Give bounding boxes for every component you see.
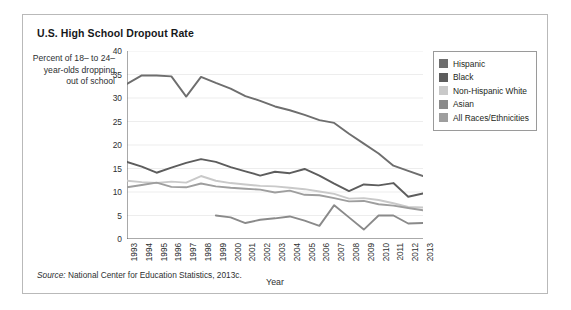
y-tick-label: 20 xyxy=(113,140,122,150)
legend-swatch xyxy=(439,86,448,95)
x-tick-label: 2005 xyxy=(308,243,317,261)
x-tick-label: 2008 xyxy=(352,243,361,261)
figure-frame: U.S. High School Dropout Rate Percent of… xyxy=(22,14,548,294)
legend-item: Non-Hispanic White xyxy=(439,84,529,98)
x-tick-label: 1994 xyxy=(145,243,154,261)
series-line xyxy=(127,75,423,176)
x-tick-label: 2000 xyxy=(234,243,243,261)
y-tick-label: 15 xyxy=(113,164,122,174)
source-text: National Center for Education Statistics… xyxy=(66,270,242,280)
x-tick-label: 1995 xyxy=(160,243,169,261)
x-tick-label: 1999 xyxy=(219,243,228,261)
y-axis-caption: Percent of 18– to 24–year-olds dropping … xyxy=(31,53,115,88)
legend-swatch xyxy=(439,73,448,82)
x-tick-label: 1996 xyxy=(174,243,183,261)
series-line xyxy=(127,159,423,197)
source-note: Source: National Center for Education St… xyxy=(37,270,242,280)
legend-swatch xyxy=(439,113,448,122)
x-tick-label: 2004 xyxy=(293,243,302,261)
legend-item: Hispanic xyxy=(439,57,529,71)
x-tick-label: 2010 xyxy=(382,243,391,261)
legend-item: Asian xyxy=(439,98,529,112)
x-tick-label: 2001 xyxy=(248,243,257,261)
x-tick-label: 2009 xyxy=(367,243,376,261)
legend-label: Asian xyxy=(453,99,474,109)
x-tick-label: 2002 xyxy=(263,243,272,261)
x-tick-label: 2006 xyxy=(322,243,331,261)
chart-legend: HispanicBlackNon-Hispanic WhiteAsianAll … xyxy=(433,51,537,131)
x-tick-label: 2013 xyxy=(426,243,435,261)
legend-label: Black xyxy=(453,72,473,82)
x-tick-label: 1998 xyxy=(204,243,213,261)
x-tick-label: 2012 xyxy=(411,243,420,261)
x-tick-label: 1997 xyxy=(189,243,198,261)
y-tick-label: 0 xyxy=(117,234,122,244)
y-tick-label: 35 xyxy=(113,70,122,80)
legend-swatch xyxy=(439,100,448,109)
chart-title: U.S. High School Dropout Rate xyxy=(37,27,194,39)
y-tick-label: 5 xyxy=(117,211,122,221)
legend-label: Hispanic xyxy=(453,59,485,69)
y-tick-label: 30 xyxy=(113,93,122,103)
plot-area: 0510152025303540199319941995199619971998… xyxy=(127,51,423,239)
y-tick-label: 40 xyxy=(113,46,122,56)
source-label: Source: xyxy=(37,270,66,280)
legend-label: All Races/Ethnicities xyxy=(453,113,529,123)
legend-item: Black xyxy=(439,71,529,85)
legend-swatch xyxy=(439,59,448,68)
series-line xyxy=(216,205,423,229)
y-tick-label: 10 xyxy=(113,187,122,197)
legend-item: All Races/Ethnicities xyxy=(439,111,529,125)
legend-label: Non-Hispanic White xyxy=(453,86,527,96)
y-tick-label: 25 xyxy=(113,117,122,127)
x-tick-label: 2003 xyxy=(278,243,287,261)
plot-svg xyxy=(127,51,423,239)
x-tick-label: 1993 xyxy=(130,243,139,261)
x-tick-label: 2011 xyxy=(396,243,405,261)
x-tick-label: 2007 xyxy=(337,243,346,261)
